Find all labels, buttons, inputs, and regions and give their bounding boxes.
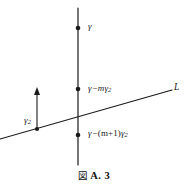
label-point-gamma-minus-m-plus-1-gamma2: γ−(m+1)γ2 [88, 129, 128, 139]
diagram-canvas [0, 0, 188, 189]
figure-a3: γ γ−mγ2 γ−(m+1)γ2 γ2 L 図A. 3 [0, 0, 188, 189]
label-line-L: L [174, 83, 179, 93]
gamma2-measure-arrow-head [34, 87, 40, 95]
point-gamma-minus-m-gamma2-dot [76, 87, 81, 92]
figure-caption-symbol: 図 [78, 170, 90, 181]
label-gamma-var: γ [88, 21, 92, 31]
point-gamma-dot [76, 26, 81, 31]
label-gamma2-sub: 2 [28, 118, 31, 125]
label-gamma-bot-coeff: (m+1) [98, 128, 121, 138]
point-gamma-minus-m-plus-1-gamma2-dot [76, 133, 81, 138]
label-point-gamma-minus-m-gamma2: γ−mγ2 [88, 84, 111, 94]
figure-caption: 図A. 3 [0, 168, 188, 182]
label-gamma-mid-sub: 2 [108, 86, 111, 93]
label-gamma-bot-sub: 2 [125, 131, 128, 138]
line-L-left-dot [35, 127, 39, 131]
figure-caption-number: A. 3 [90, 170, 110, 181]
label-point-gamma: γ [88, 22, 92, 31]
label-gamma2-measure: γ2 [24, 116, 31, 126]
